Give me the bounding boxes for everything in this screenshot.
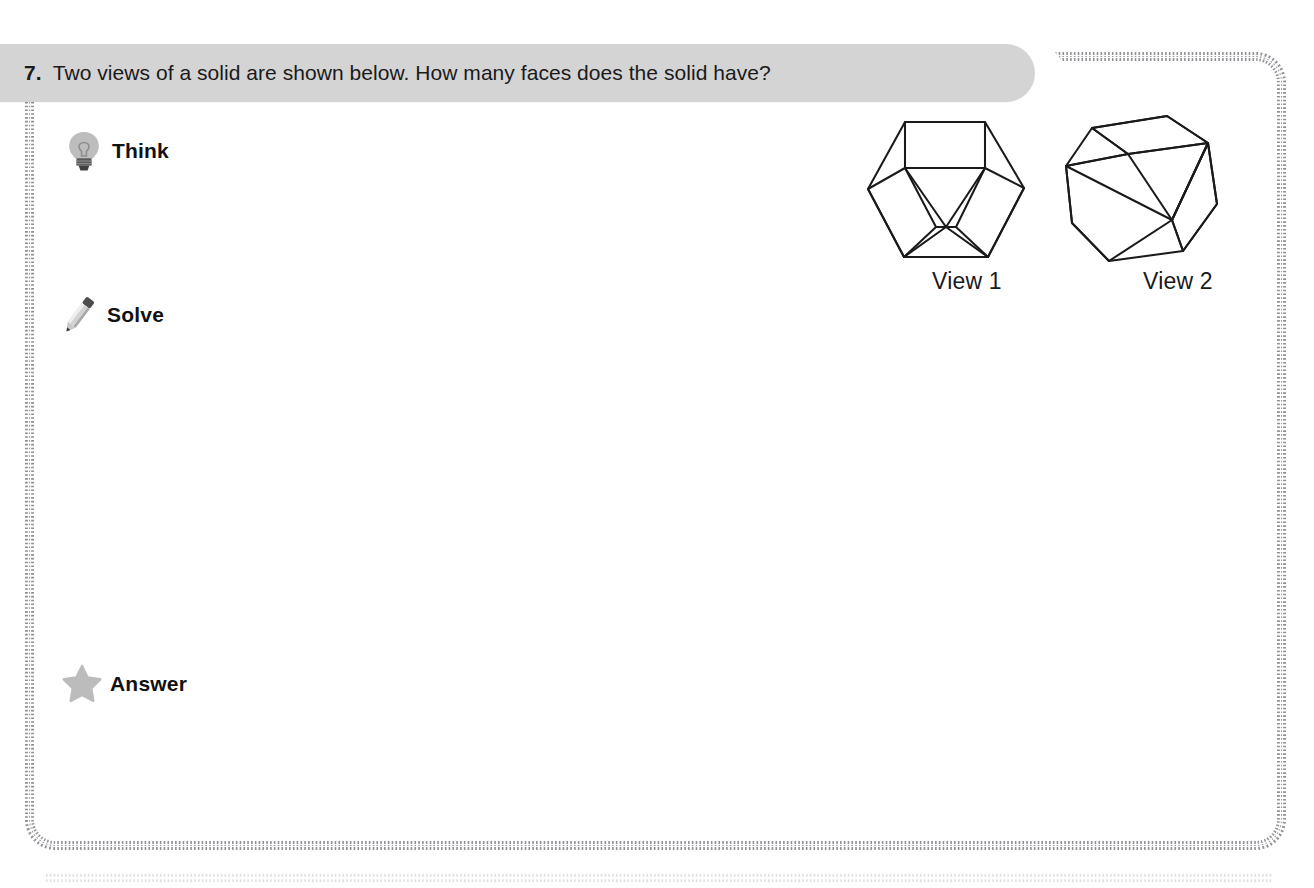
pencil-icon — [57, 293, 101, 337]
question-text: Two views of a solid are shown below. Ho… — [53, 61, 771, 85]
view-1-polyhedron — [868, 122, 1024, 257]
star-icon — [60, 662, 104, 706]
step-label-solve: Solve — [107, 303, 164, 327]
lightbulb-icon — [62, 129, 106, 173]
question-header-bar: 7. Two views of a solid are shown below.… — [0, 44, 1035, 102]
figure-caption-view-2: View 2 — [1143, 268, 1213, 295]
page-ghost-text-top-left — [172, 8, 178, 28]
view-2-polyhedron — [1066, 116, 1217, 261]
solid-views-figure — [860, 96, 1290, 311]
figure-caption-view-1: View 1 — [932, 268, 1002, 295]
step-label-answer: Answer — [110, 672, 187, 696]
step-think: Think — [62, 128, 169, 174]
question-number: 7. — [24, 61, 42, 85]
step-label-think: Think — [112, 139, 169, 163]
step-answer: Answer — [60, 661, 187, 707]
step-solve: Solve — [57, 292, 164, 338]
